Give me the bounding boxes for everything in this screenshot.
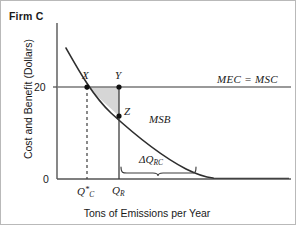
- point-z-marker: [116, 113, 121, 118]
- point-x-marker: [84, 84, 89, 89]
- point-x-label: X: [82, 69, 89, 81]
- msb-curve-label: MSB: [149, 113, 170, 125]
- mec-msc-line-label: MEC = MSC: [217, 73, 278, 85]
- qc-subscript: C: [89, 190, 94, 199]
- figure-title: Firm C: [9, 10, 43, 22]
- qr-tick-label: QR: [112, 184, 125, 198]
- figure-container: Firm C Cost and Benefit (Dollars) Tons o…: [0, 0, 296, 225]
- delta-q-rc-subscript: RC: [153, 158, 163, 167]
- qr-subscript: R: [120, 189, 125, 198]
- point-z-label: Z: [124, 105, 130, 117]
- qr-base: Q: [112, 184, 120, 196]
- x-axis-title: Tons of Emissions per Year: [57, 207, 237, 219]
- y-tick-label-20: 20: [34, 81, 46, 93]
- y-tick-label-0: 0: [43, 173, 49, 185]
- delta-q-rc-label: ΔQRC: [139, 153, 163, 167]
- qc-star-tick-label: Q*C: [77, 184, 94, 199]
- point-y-marker: [116, 84, 121, 89]
- y-axis-title: Cost and Benefit (Dollars): [22, 24, 34, 174]
- point-y-label: Y: [115, 69, 121, 81]
- delta-q-rc-base: ΔQ: [139, 153, 153, 165]
- qc-base: Q: [77, 185, 85, 197]
